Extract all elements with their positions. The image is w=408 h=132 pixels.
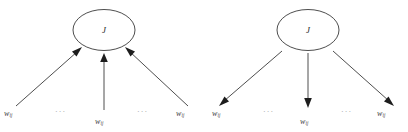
weight-subscript: ij [217, 112, 220, 118]
ellipsis-left-2: ··· [137, 108, 148, 116]
ellipsis-right-1: ··· [263, 108, 274, 116]
weight-subscript: ij [100, 120, 103, 126]
weight-label-w-ij-middle: wij [95, 118, 104, 126]
diagram-panel-outbound: J wij ··· wij ··· wij [204, 0, 408, 132]
outbound-arrowhead-middle [304, 98, 312, 108]
figure-root: J wij ··· wij ··· wij J [0, 0, 408, 132]
weight-subscript: ij [9, 112, 12, 118]
inbound-edge-right [129, 51, 188, 106]
weight-label-w-ij-right: wij [377, 110, 386, 118]
inbound-graph-canvas: J [0, 0, 204, 132]
outbound-edge-left [224, 51, 282, 101]
weight-label-w-ij-right: wij [176, 110, 185, 118]
ellipsis-left-1: ··· [55, 108, 66, 116]
weight-label-w-ij-middle: wij [300, 118, 309, 126]
weight-label-w-ij-left: wij [212, 110, 221, 118]
weight-subscript: ij [382, 112, 385, 118]
ellipsis-right-2: ··· [341, 108, 352, 116]
weight-label-w-ij-left: wij [4, 110, 13, 118]
inbound-arrowhead-middle [100, 53, 108, 62]
inbound-edge-left [16, 51, 78, 106]
weight-subscript: ij [305, 120, 308, 126]
outbound-edge-right [333, 51, 389, 101]
weight-subscript: ij [181, 112, 184, 118]
diagram-panel-inbound: J wij ··· wij ··· wij [0, 0, 204, 132]
